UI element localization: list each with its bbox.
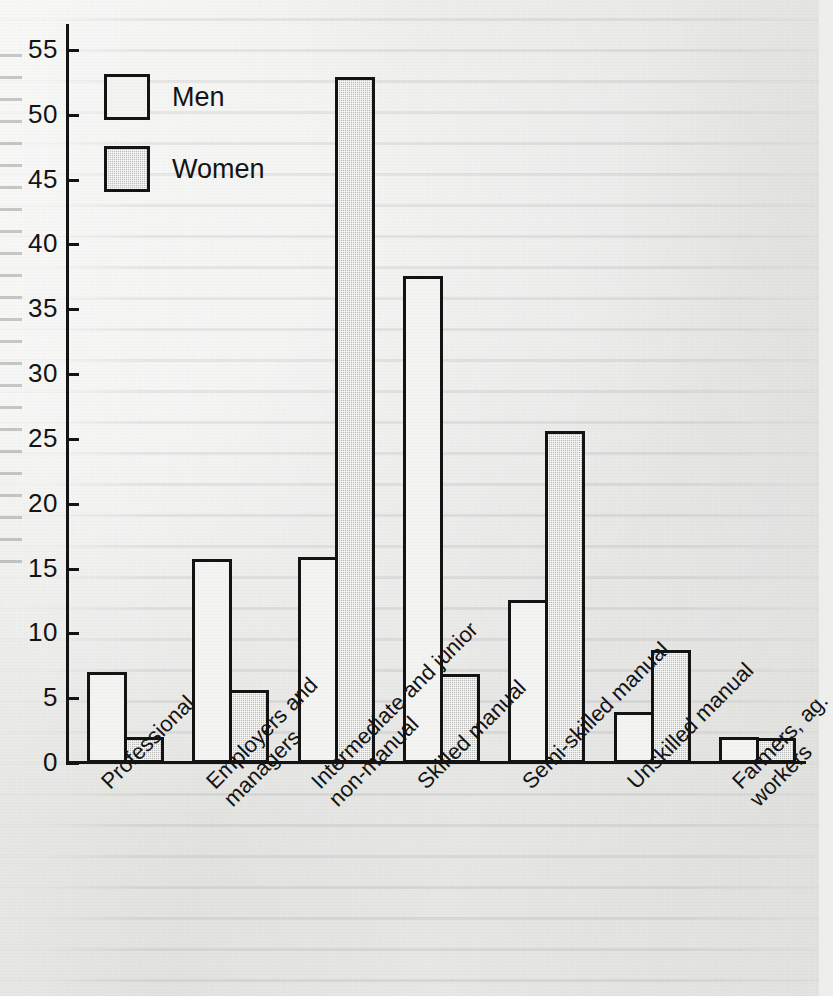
y-axis-tick-label-30: 30 [8,360,58,386]
y-axis-tick-label-10: 10 [8,619,58,645]
y-axis-tick-label-40: 40 [8,230,58,256]
y-axis-tick-label-0: 0 [8,749,58,775]
legend-label-women: Women [172,156,265,183]
legend-swatch-women-icon [104,146,150,192]
bar-group-5 [508,24,585,763]
legend-label-men: Men [172,84,225,111]
bar-women-3[interactable] [335,77,375,763]
legend-swatch-men-icon [104,74,150,120]
y-axis-tick-label-25: 25 [8,425,58,451]
bar-men-2[interactable] [192,559,232,763]
legend-entry-men: Men [104,74,265,120]
bar-group-7 [719,24,796,763]
y-axis-tick-label-50: 50 [8,101,58,127]
y-axis-tick-label-15: 15 [8,555,58,581]
y-axis-tick-label-55: 55 [8,36,58,62]
y-axis-tick-label-45: 45 [8,166,58,192]
legend-entry-women: Women [104,146,265,192]
y-axis-tick-label-5: 5 [8,684,58,710]
chart-legend: Men Women [104,74,265,218]
y-axis-tick-label-20: 20 [8,490,58,516]
bar-group-3 [298,24,375,763]
y-axis-tick-label-35: 35 [8,295,58,321]
